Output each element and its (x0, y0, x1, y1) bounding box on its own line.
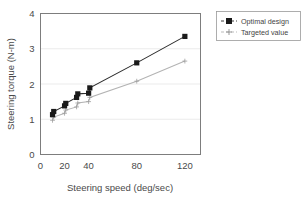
data-point-marker (62, 111, 67, 116)
data-point-marker (75, 91, 80, 96)
data-point-marker (63, 101, 68, 106)
chart-svg: 01234 0204080120 Steering speed (deg/sec… (0, 0, 307, 203)
y-tick-label: 4 (29, 8, 34, 19)
y-tick-label: 1 (29, 114, 34, 125)
data-point-marker (51, 109, 56, 114)
data-point-marker (86, 99, 91, 104)
legend-label-optimal-design: Optimal design (241, 17, 289, 26)
data-point-marker (87, 85, 92, 90)
chart-figure: 01234 0204080120 Steering speed (deg/sec… (0, 0, 307, 203)
series-optimal-design (50, 34, 188, 117)
y-axis-title: Steering torque (N-m) (5, 38, 16, 130)
y-tick-label: 0 (29, 149, 34, 160)
x-axis-ticks: 0204080120 (38, 160, 193, 171)
data-point-marker (182, 59, 187, 64)
data-point-marker (75, 101, 80, 106)
legend: Optimal design Targeted value (217, 12, 301, 41)
legend-label-targeted-value: Targeted value (241, 28, 288, 37)
data-point-marker (134, 79, 139, 84)
series-targeted-value (50, 59, 187, 123)
data-point-marker (134, 60, 139, 65)
x-tick-label: 0 (38, 160, 43, 171)
y-tick-label: 2 (29, 79, 34, 90)
x-tick-label: 120 (177, 160, 193, 171)
data-point-marker (182, 34, 187, 39)
y-axis-ticks: 01234 (29, 8, 34, 160)
x-tick-label: 20 (59, 160, 70, 171)
x-tick-label: 40 (83, 160, 94, 171)
data-point-marker (74, 105, 79, 110)
plot-gridlines (41, 49, 201, 120)
data-point-marker (86, 91, 91, 96)
x-tick-label: 80 (131, 160, 142, 171)
x-axis-title: Steering speed (deg/sec) (67, 182, 173, 193)
legend-marker-square-icon (226, 18, 232, 24)
y-tick-label: 3 (29, 43, 34, 54)
data-point-marker (50, 118, 55, 123)
